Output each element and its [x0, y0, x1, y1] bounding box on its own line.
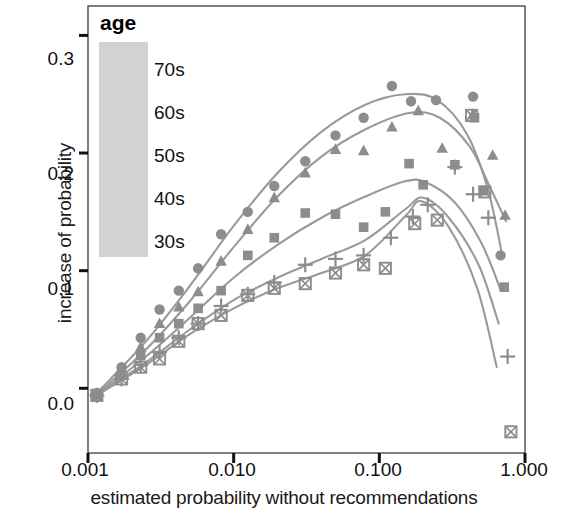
- legend-background: [99, 42, 148, 257]
- legend-label-60s[interactable]: 60s: [154, 102, 185, 124]
- legend-label-70s[interactable]: 70s: [154, 59, 185, 81]
- legend-label-30s[interactable]: 30s: [154, 231, 185, 253]
- x-tick-0.100: 0.100: [333, 459, 423, 481]
- legend-label-50s[interactable]: 50s: [154, 145, 185, 167]
- x-tick-1.000: 1.000: [479, 459, 568, 481]
- chart-figure: age 70s 60s 50s 40s 30s 0.3 0.2 0.1 0.0 …: [0, 0, 568, 519]
- legend-label-40s[interactable]: 40s: [154, 188, 185, 210]
- x-tick-0.010: 0.010: [187, 459, 277, 481]
- data-points: [89, 81, 516, 438]
- x-axis-title: estimated probability without recommenda…: [0, 487, 568, 509]
- plot-canvas: [0, 0, 568, 519]
- y-axis-title: increase of probability: [54, 3, 76, 463]
- legend-title: age: [100, 11, 136, 35]
